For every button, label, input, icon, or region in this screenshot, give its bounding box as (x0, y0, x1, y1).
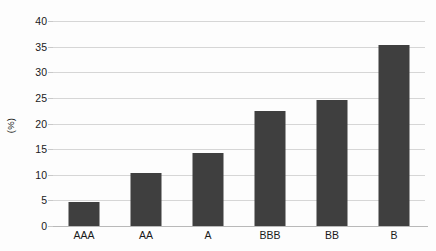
x-axis-tick-label: AAA (53, 230, 115, 241)
bar[interactable] (255, 111, 286, 226)
x-axis-tick-label: BBB (239, 230, 301, 241)
y-axis-tick-label: 5 (41, 195, 47, 206)
y-axis-tick-label: 30 (35, 67, 47, 78)
x-axis-tick-label: AA (115, 230, 177, 241)
bar[interactable] (193, 153, 224, 226)
bar-slot (177, 21, 239, 226)
bar-slot (115, 21, 177, 226)
bar-chart: (%) 0510152025303540 AAAAAABBBBBB (0, 0, 436, 251)
y-axis-tick-label: 40 (35, 16, 47, 27)
y-axis-title-label: (%) (6, 118, 17, 133)
x-axis-tick-label: A (177, 230, 239, 241)
bar[interactable] (69, 202, 100, 226)
bar-slot (53, 21, 115, 226)
y-axis-tick-label: 10 (35, 170, 47, 181)
bar[interactable] (131, 173, 162, 226)
y-axis-title: (%) (0, 0, 22, 251)
x-axis-baseline (50, 226, 428, 227)
bar-slot (239, 21, 301, 226)
bar-slot (301, 21, 363, 226)
y-axis-tick-mark (48, 226, 53, 227)
bars-layer (53, 21, 425, 226)
y-axis-tick-label: 25 (35, 93, 47, 104)
bar[interactable] (379, 45, 410, 226)
bar[interactable] (317, 100, 348, 226)
plot-area: 0510152025303540 (53, 21, 425, 226)
x-axis-tick-label: BB (301, 230, 363, 241)
y-axis-tick-label: 20 (35, 118, 47, 129)
bar-slot (363, 21, 425, 226)
x-axis-tick-labels: AAAAAABBBBBB (53, 230, 425, 248)
y-axis-tick-label: 0 (41, 221, 47, 232)
y-axis-tick-label: 35 (35, 41, 47, 52)
x-axis-tick-label: B (363, 230, 425, 241)
y-axis-tick-label: 15 (35, 144, 47, 155)
